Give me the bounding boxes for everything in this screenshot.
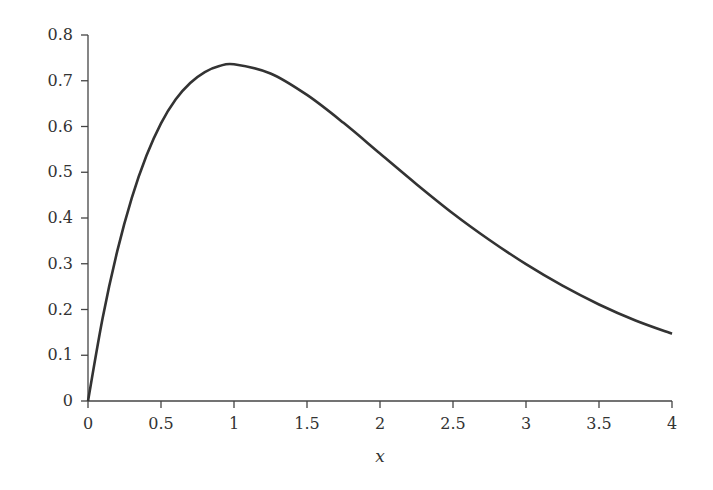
x-tick-label: 4	[667, 414, 677, 433]
x-axis: 00.511.522.533.54	[83, 401, 677, 433]
x-tick-label: 1	[229, 414, 239, 433]
y-tick-label: 0.1	[48, 345, 73, 364]
y-tick-label: 0.2	[48, 300, 73, 319]
x-tick-label: 3	[521, 414, 531, 433]
y-tick-label: 0.6	[48, 117, 73, 136]
x-tick-label: 0	[83, 414, 93, 433]
x-tick-label: 1.5	[294, 414, 319, 433]
x-tick-label: 2	[375, 414, 385, 433]
y-tick-label: 0	[63, 391, 73, 410]
line-chart: 00.10.20.30.40.50.60.70.8 00.511.522.533…	[0, 0, 713, 490]
y-tick-label: 0.3	[48, 254, 73, 273]
x-tick-label: 3.5	[586, 414, 611, 433]
x-axis-label: x	[375, 446, 385, 466]
y-tick-label: 0.7	[48, 71, 73, 90]
y-axis: 00.10.20.30.40.50.60.70.8	[48, 25, 88, 410]
plot-series	[88, 64, 672, 401]
y-tick-label: 0.8	[48, 25, 73, 44]
x-tick-label: 0.5	[148, 414, 173, 433]
y-tick-label: 0.5	[48, 162, 73, 181]
series-line	[88, 64, 672, 401]
x-tick-label: 2.5	[440, 414, 465, 433]
y-tick-label: 0.4	[48, 208, 73, 227]
